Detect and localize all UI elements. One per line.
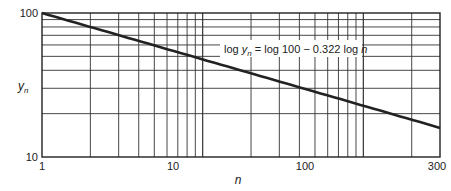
log-log-chart: log yn = log 100 − 0.322 log n 100 10 1 … — [0, 0, 451, 191]
y-axis-label: yn — [17, 79, 29, 95]
x-tick-100: 100 — [296, 160, 314, 172]
y-tick-100: 100 — [20, 7, 38, 19]
grid-lines — [42, 13, 440, 157]
plot-frame — [42, 13, 440, 157]
x-tick-1: 1 — [39, 160, 45, 172]
x-tick-300: 300 — [428, 160, 446, 172]
y-tick-10: 10 — [26, 151, 38, 163]
x-tick-10: 10 — [167, 160, 179, 172]
x-axis-label: n — [235, 173, 242, 187]
